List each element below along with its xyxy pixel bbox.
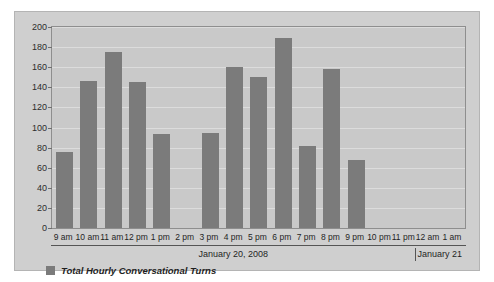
x-axis-tick-label: 5 pm bbox=[245, 231, 269, 244]
x-axis-tick-label: 9 pm bbox=[343, 231, 367, 244]
x-axis-tick-label: 2 pm bbox=[172, 231, 196, 244]
x-axis-tick-label: 3 pm bbox=[197, 231, 221, 244]
x-axis-tick-label: 1 am bbox=[440, 231, 464, 244]
y-axis-tick-label: 40 bbox=[37, 183, 47, 192]
x-axis-tick-label: 9 am bbox=[51, 231, 75, 244]
bar bbox=[80, 81, 97, 228]
bar-chart: 020406080100120140160180200 9 am10 am11 … bbox=[14, 11, 480, 271]
x-axis-tick-label: 6 pm bbox=[270, 231, 294, 244]
bar bbox=[299, 146, 316, 228]
bar bbox=[105, 52, 122, 228]
y-axis-tick-label: 20 bbox=[37, 203, 47, 212]
date-band: January 20, 2008January 21 bbox=[51, 246, 466, 263]
bar bbox=[323, 69, 340, 228]
x-axis-tick-label: 12 pm bbox=[124, 231, 148, 244]
date-band-label: January 20, 2008 bbox=[51, 246, 415, 263]
x-axis-tick-label: 1 pm bbox=[148, 231, 172, 244]
y-axis-tick-label: 120 bbox=[32, 103, 47, 112]
x-axis-tick-label: 11 am bbox=[100, 231, 124, 244]
y-axis-tick-label: 200 bbox=[32, 23, 47, 32]
date-band-label: January 21 bbox=[415, 246, 464, 263]
bar bbox=[202, 133, 219, 228]
plot-area: 020406080100120140160180200 bbox=[51, 26, 466, 229]
bar bbox=[275, 38, 292, 228]
bar bbox=[348, 160, 365, 228]
bar bbox=[153, 134, 170, 228]
bar bbox=[250, 77, 267, 228]
x-axis-tick-label: 12 am bbox=[415, 231, 439, 244]
x-axis-tick-label: 10 pm bbox=[367, 231, 391, 244]
y-axis-tick-label: 180 bbox=[32, 43, 47, 52]
bar bbox=[226, 67, 243, 228]
y-axis-tick-mark bbox=[48, 228, 52, 229]
bar bbox=[56, 152, 73, 228]
y-axis-tick-label: 80 bbox=[37, 143, 47, 152]
y-axis-tick-label: 160 bbox=[32, 63, 47, 72]
y-axis-tick-label: 60 bbox=[37, 163, 47, 172]
x-axis-tick-label: 10 am bbox=[75, 231, 99, 244]
y-axis-tick-label: 140 bbox=[32, 83, 47, 92]
legend-swatch-total-hourly-conversational-turns bbox=[46, 266, 55, 275]
bar-series bbox=[52, 27, 465, 228]
x-axis-tick-label: 4 pm bbox=[221, 231, 245, 244]
x-axis-tick-label: 8 pm bbox=[318, 231, 342, 244]
bar bbox=[129, 82, 146, 228]
x-axis-tick-label: 11 pm bbox=[391, 231, 415, 244]
legend-label: Total Hourly Conversational Turns bbox=[61, 265, 216, 276]
x-axis-tick-label: 7 pm bbox=[294, 231, 318, 244]
y-axis-tick-label: 0 bbox=[42, 224, 47, 233]
y-axis-tick-label: 100 bbox=[32, 123, 47, 132]
legend: Total Hourly Conversational Turns bbox=[46, 265, 216, 276]
x-axis-tick-labels: 9 am10 am11 am12 pm1 pm2 pm3 pm4 pm5 pm6… bbox=[51, 231, 466, 244]
